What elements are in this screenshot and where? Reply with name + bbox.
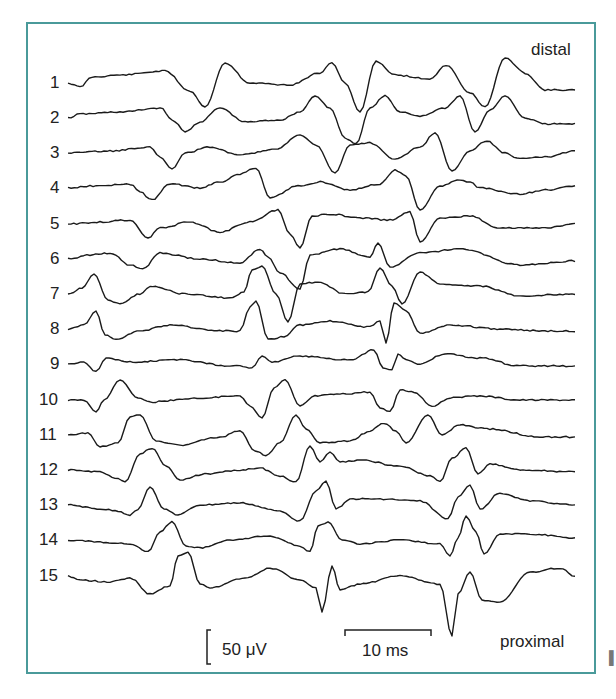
time-scale-label: 10 ms (362, 641, 408, 661)
edge-fragment: ▌ (609, 650, 616, 665)
amplitude-scale-bar (207, 630, 211, 664)
amplitude-scale-label: 50 μV (222, 640, 267, 660)
time-scale-bar (345, 630, 431, 636)
scale-bars (0, 0, 616, 699)
